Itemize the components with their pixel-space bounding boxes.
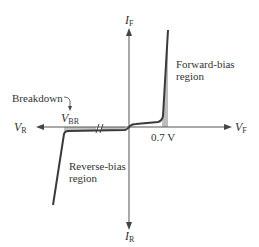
if-axis-label: IF: [125, 14, 133, 30]
ir-axis-label: IR: [125, 230, 134, 246]
vbr-label: VBR: [61, 112, 79, 128]
reverse-bias-label: Reverse-bias region: [69, 160, 126, 184]
forward-bias-label: Forward-bias region: [176, 58, 235, 82]
knee-voltage-label: 0.7 V: [151, 131, 175, 143]
x-left-arrow-icon: [36, 124, 44, 130]
x-right-arrow-icon: [224, 124, 232, 130]
axis-break-mark: [96, 124, 99, 133]
breakdown-arrowhead-icon: [68, 106, 72, 111]
vf-axis-label: VF: [235, 121, 247, 137]
iv-diagram: [0, 0, 259, 247]
breakdown-label: Breakdown: [12, 92, 63, 104]
vr-axis-label: VR: [14, 121, 27, 137]
